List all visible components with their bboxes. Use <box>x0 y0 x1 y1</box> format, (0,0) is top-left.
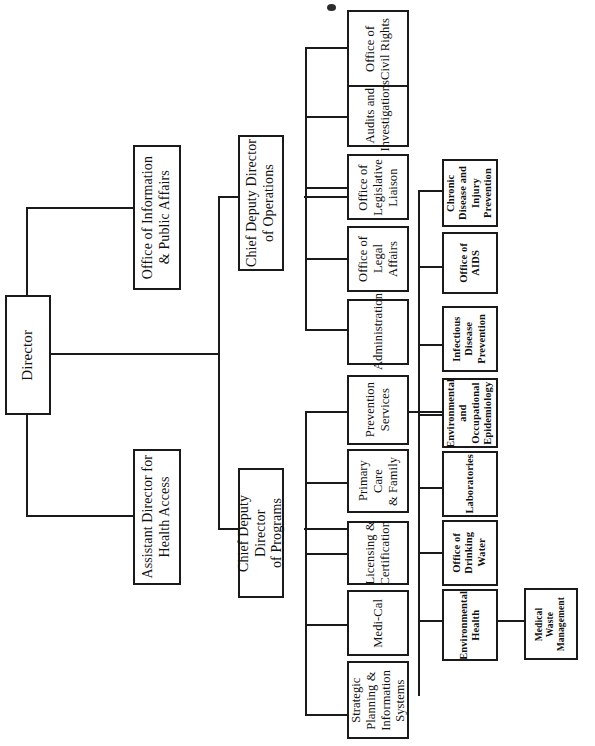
node-environmental-and-occupational-epidemiology[interactable]: Environmental and Occupational Epidemiol… <box>442 378 498 448</box>
node-licensing-and-certification[interactable]: Licensing & Certification <box>347 521 409 585</box>
connector-operations-trunk <box>305 47 307 331</box>
node-administration[interactable]: Administration <box>347 299 409 365</box>
connector-to-env-occ-epidemiology <box>418 414 443 416</box>
connector-operations-stub <box>304 196 348 198</box>
node-office-of-legal-affairs-label: Office of Legal Affairs <box>356 228 400 290</box>
node-chronic-disease-and-injury-prevention[interactable]: Chronic Disease and Injury Prevention <box>442 159 498 227</box>
node-assistant-director-for-health-access[interactable]: Assistant Director for Health Access <box>133 449 181 585</box>
node-director[interactable]: Director <box>5 295 51 415</box>
connector-to-office-drinking-water <box>418 552 443 554</box>
connector-to-chronic-disease <box>418 190 443 192</box>
node-chief-deputy-director-of-operations[interactable]: Chief Deputy Director of Operations <box>238 135 284 271</box>
node-administration-label: Administration <box>371 293 386 370</box>
node-laboratories[interactable]: Laboratories <box>442 451 498 517</box>
connector-operations-to-administration <box>305 329 348 331</box>
node-chief-deputy-director-of-programs[interactable]: Chief Deputy Director of Programs <box>238 468 284 598</box>
connector-programs-to-strategic-planning <box>305 714 348 716</box>
connector-programs-to-medi-cal <box>305 624 348 626</box>
connector-to-assistant-director <box>26 515 135 517</box>
node-office-of-civil-rights[interactable]: Office of Civil Rights <box>347 10 409 87</box>
node-assistant-director-for-health-access-label: Assistant Director for Health Access <box>140 455 173 579</box>
node-licensing-and-certification-label: Licensing & Certification <box>363 521 393 585</box>
node-environmental-health-label: Environmental Health <box>458 591 483 660</box>
node-environmental-health[interactable]: Environmental Health <box>442 589 498 661</box>
node-environmental-and-occupational-epidemiology-label: Environmental and Occupational Epidemiol… <box>445 379 495 448</box>
node-infectious-disease-prevention-label: Infectious Disease Prevention <box>451 314 488 364</box>
connector-env-health-to-medical-waste <box>498 620 525 622</box>
node-primary-care-and-family-label: Primary Care & Family <box>356 451 400 511</box>
scan-artifact-blob <box>327 4 336 11</box>
node-chief-deputy-director-of-operations-label: Chief Deputy Director of Operations <box>244 139 277 267</box>
node-chronic-disease-and-injury-prevention-label: Chronic Disease and Injury Prevention <box>445 166 495 220</box>
node-infectious-disease-prevention[interactable]: Infectious Disease Prevention <box>442 306 498 372</box>
node-office-of-aids[interactable]: Office of AIDS <box>442 232 498 294</box>
node-office-of-civil-rights-label: Office of Civil Rights <box>363 18 393 80</box>
connector-to-office-info-public-affairs <box>26 207 135 209</box>
node-laboratories-label: Laboratories <box>464 454 476 514</box>
node-medi-cal[interactable]: Medi-Cal <box>347 590 409 656</box>
connector-to-environmental-health <box>418 620 443 622</box>
node-office-of-information-and-public-affairs-label: Office of Information & Public Affairs <box>140 156 173 279</box>
connector-director-to-spine <box>50 353 218 355</box>
node-office-of-drinking-water-label: Office of Drinking Water <box>451 532 488 574</box>
connector-programs-stub <box>304 528 348 530</box>
node-strategic-planning-and-information-systems-label: Strategic Planning & Information Systems <box>349 670 408 731</box>
node-primary-care-and-family[interactable]: Primary Care & Family <box>347 449 409 513</box>
connector-director-top-vertical <box>26 207 28 297</box>
node-prevention-services-label: Prevention Services <box>363 382 393 437</box>
node-chief-deputy-director-of-programs-label: Chief Deputy Director of Programs <box>236 470 286 596</box>
connector-programs-to-primary-care <box>305 482 348 484</box>
connector-director-bottom-vertical <box>26 413 28 517</box>
node-audits-and-investigations-label: Audits and Investigations <box>363 80 393 152</box>
connector-operations-to-civil-rights <box>305 47 348 49</box>
node-office-of-information-and-public-affairs[interactable]: Office of Information & Public Affairs <box>133 145 181 290</box>
node-director-label: Director <box>19 330 37 381</box>
node-office-of-legislative-liaison[interactable]: Office of Legislative Liaison <box>347 154 409 220</box>
connector-programs-to-licensing <box>305 553 348 555</box>
connector-programs-trunk <box>305 411 307 716</box>
node-medical-waste-management-label: Medical Waste Management <box>534 597 568 651</box>
node-audits-and-investigations[interactable]: Audits and Investigations <box>347 85 409 147</box>
node-medi-cal-label: Medi-Cal <box>371 599 386 648</box>
node-office-of-drinking-water[interactable]: Office of Drinking Water <box>442 520 498 586</box>
connector-operations-to-legal-affairs <box>305 258 348 260</box>
node-strategic-planning-and-information-systems[interactable]: Strategic Planning & Information Systems <box>347 661 409 739</box>
connector-operations-to-legislative-liaison <box>305 187 348 189</box>
node-office-of-legal-affairs[interactable]: Office of Legal Affairs <box>347 226 409 292</box>
node-office-of-aids-label: Office of AIDS <box>458 243 483 283</box>
org-chart-canvas: Director Office of Information & Public … <box>0 0 595 746</box>
connector-to-infectious-disease <box>418 344 443 346</box>
connector-to-office-of-aids <box>418 266 443 268</box>
connector-operations-to-audits <box>305 116 348 118</box>
connector-spine-to-operations <box>218 196 240 198</box>
connector-spine-vertical <box>218 196 220 530</box>
connector-to-laboratories <box>418 487 443 489</box>
node-medical-waste-management[interactable]: Medical Waste Management <box>524 588 578 660</box>
node-office-of-legislative-liaison-label: Office of Legislative Liaison <box>356 159 400 216</box>
connector-programs-to-prevention-services <box>305 411 348 413</box>
node-prevention-services[interactable]: Prevention Services <box>347 375 409 445</box>
